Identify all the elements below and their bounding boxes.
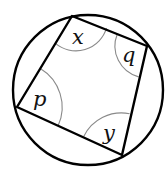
angle-label-x: x (72, 25, 84, 49)
angle-label-y: y (102, 121, 116, 145)
angle-label-p: p (33, 87, 46, 111)
cyclic-quadrilateral-diagram: x q p y (0, 0, 167, 180)
angle-label-q: q (122, 43, 135, 67)
